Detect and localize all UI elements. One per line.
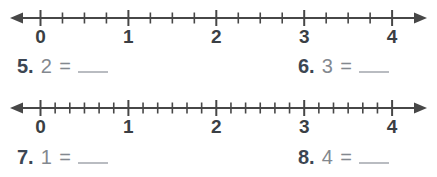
- left-arrowhead-icon: [10, 13, 23, 24]
- question-number: 5.: [17, 55, 34, 77]
- question-expression: 2 =: [41, 55, 72, 77]
- tick-label: 2: [211, 116, 222, 137]
- tick-label: 0: [35, 116, 46, 137]
- tick-label: 3: [299, 26, 310, 47]
- number-line-sixths: 01234: [0, 93, 437, 137]
- question-expression: 4 =: [322, 146, 353, 168]
- question-number: 6.: [298, 55, 315, 77]
- answer-blank[interactable]: [78, 57, 108, 73]
- question-expression: 1 =: [41, 146, 72, 168]
- question-5: 5.2 =: [17, 55, 108, 77]
- question-6: 6.3 =: [298, 55, 389, 77]
- tick-label: 4: [387, 116, 398, 137]
- tick-label: 0: [35, 26, 46, 47]
- tick-label: 1: [123, 26, 134, 47]
- answer-blank[interactable]: [359, 57, 389, 73]
- question-expression: 3 =: [322, 55, 353, 77]
- tick-label: 3: [299, 116, 310, 137]
- question-8: 8.4 =: [298, 146, 389, 168]
- number-line-fourths: 01234: [0, 3, 437, 47]
- question-7: 7.1 =: [17, 146, 108, 168]
- tick-label: 4: [387, 26, 398, 47]
- math-worksheet: 01234 5.2 = 6.3 = 01234 7.1 = 8.4 =: [0, 0, 437, 177]
- question-number: 8.: [298, 146, 315, 168]
- question-number: 7.: [17, 146, 34, 168]
- tick-label: 2: [211, 26, 222, 47]
- answer-blank[interactable]: [359, 148, 389, 164]
- answer-blank[interactable]: [78, 148, 108, 164]
- right-arrowhead-icon: [414, 103, 427, 114]
- tick-label: 1: [123, 116, 134, 137]
- right-arrowhead-icon: [414, 13, 427, 24]
- left-arrowhead-icon: [10, 103, 23, 114]
